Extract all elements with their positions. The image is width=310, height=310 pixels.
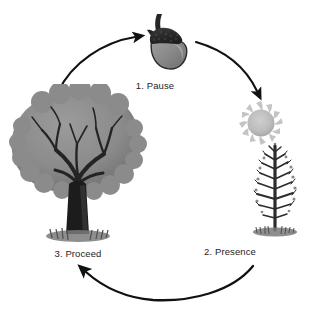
node-label-proceed: 3. Proceed [8,248,148,259]
node-label-pause: 1. Pause [0,80,310,91]
acorn-cap [150,28,182,44]
sun-disc [248,110,275,137]
acorn-nut [151,39,187,69]
arrow-presence-to-proceed [86,266,253,300]
cycle-diagram: 1. Pause 2. Presence 3. Proceed [0,0,310,310]
mature-tree-icon [8,84,148,246]
tree-grass-base [46,230,110,242]
sapling-icon [246,138,306,242]
acorn-icon [137,12,195,74]
sapling-branches [254,146,296,230]
sapling-grass-base [253,228,297,237]
node-label-presence: 2. Presence [160,246,300,257]
